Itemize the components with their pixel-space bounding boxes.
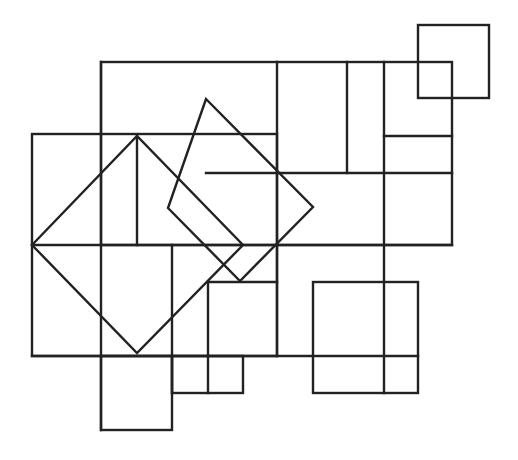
- bottom-right-square: [313, 282, 418, 393]
- geometric-figure-canvas: [0, 0, 518, 460]
- geometric-line-drawing: [0, 0, 518, 460]
- bottom-left-square: [101, 356, 172, 430]
